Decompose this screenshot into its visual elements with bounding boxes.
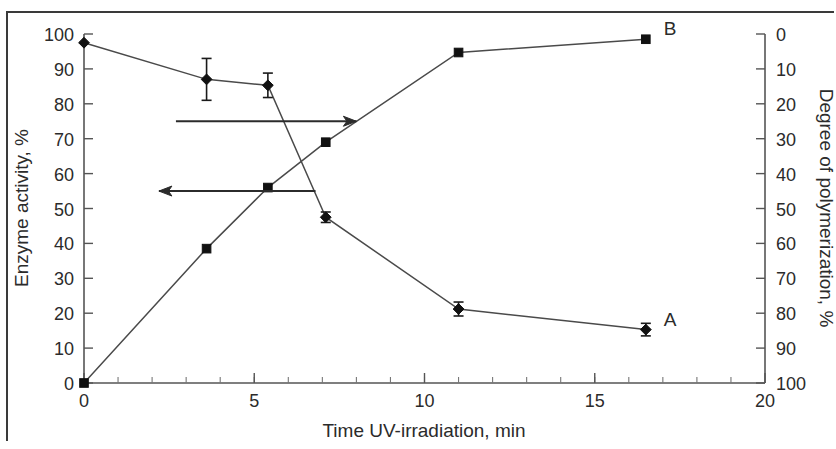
series-labels: AB [664, 18, 677, 329]
y-left-tick-label: 40 [54, 234, 74, 254]
figure-page: 05101520 0102030405060708090100 01020304… [0, 0, 836, 449]
data-point-marker-square [454, 48, 463, 57]
x-tick-label: 0 [79, 391, 89, 411]
x-tick-label: 20 [755, 391, 775, 411]
data-point-marker-square [321, 138, 330, 147]
y-right-tick-label: 90 [776, 339, 796, 359]
y-right-tick-label: 100 [776, 374, 806, 394]
y-left-tick-label: 30 [54, 269, 74, 289]
y-right-tick-label: 10 [776, 60, 796, 80]
y-left-tick-label: 20 [54, 304, 74, 324]
y-right-tick-label: 60 [776, 234, 796, 254]
data-point-marker-diamond [453, 304, 464, 315]
series-line-A [84, 43, 646, 330]
arrow-to-right-axis [176, 116, 356, 126]
x-tick-label: 10 [414, 391, 434, 411]
y-right-tick-label: 0 [776, 25, 786, 45]
y-left-tick-label: 80 [54, 95, 74, 115]
y-left-tick-label: 70 [54, 130, 74, 150]
y-axis-right-tick-labels: 0102030405060708090100 [776, 25, 806, 394]
series-line-B [84, 39, 646, 383]
annotation-arrows [159, 116, 356, 196]
x-axis-tick-labels: 05101520 [79, 391, 775, 411]
y-right-tick-label: 40 [776, 165, 796, 185]
series-label-B: B [664, 18, 677, 39]
arrow-to-left-axis [159, 186, 316, 196]
data-point-marker-diamond [640, 324, 651, 335]
x-axis-label: Time UV-irradiation, min [322, 420, 525, 441]
y-right-tick-label: 70 [776, 269, 796, 289]
data-point-marker-diamond [201, 74, 212, 85]
y-left-tick-label: 10 [54, 339, 74, 359]
y-axis-right-label: Degree of polymerization, % [816, 89, 836, 328]
y-left-tick-label: 90 [54, 60, 74, 80]
y-left-tick-label: 0 [64, 374, 74, 394]
series-error-bars [202, 58, 651, 335]
series-lines [84, 39, 646, 383]
y-axis-left-tick-labels: 0102030405060708090100 [44, 25, 74, 394]
data-point-marker-square [642, 35, 651, 44]
series-markers [79, 35, 652, 387]
x-tick-label: 15 [585, 391, 605, 411]
y-left-tick-label: 100 [44, 25, 74, 45]
series-label-A: A [664, 309, 677, 330]
y-axis-right-ticks [756, 34, 765, 383]
y-axis-left-ticks [84, 34, 93, 383]
y-right-tick-label: 20 [776, 95, 796, 115]
data-point-marker-diamond [262, 80, 273, 91]
y-right-tick-label: 30 [776, 130, 796, 150]
data-point-marker-diamond [320, 212, 331, 223]
y-right-tick-label: 50 [776, 200, 796, 220]
y-left-tick-label: 50 [54, 200, 74, 220]
y-axis-left-label: Enzyme activity, % [11, 129, 32, 287]
x-tick-label: 5 [249, 391, 259, 411]
data-point-marker-diamond [79, 37, 90, 48]
y-left-tick-label: 60 [54, 165, 74, 185]
y-right-tick-label: 80 [776, 304, 796, 324]
chart-canvas: 05101520 0102030405060708090100 01020304… [0, 0, 836, 449]
data-point-marker-square [80, 379, 89, 388]
data-point-marker-square [202, 244, 211, 253]
